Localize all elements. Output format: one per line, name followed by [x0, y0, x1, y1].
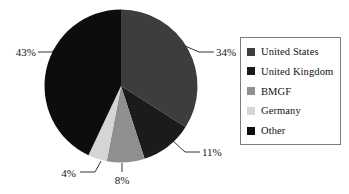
legend-swatch-icon-united-kingdom: [246, 66, 256, 76]
legend-swatch-icon-bmgf: [246, 86, 256, 96]
legend-swatch-icon-other: [246, 126, 256, 136]
pie-label-other: 43%: [16, 46, 36, 58]
legend-item-germany[interactable]: Germany: [246, 103, 337, 118]
pie-slices: [45, 10, 198, 163]
pie-label-germany: 4%: [61, 167, 76, 179]
legend-label-other: Other: [261, 125, 285, 136]
legend-item-bmgf[interactable]: BMGF: [246, 84, 337, 99]
legend-label-bmgf: BMGF: [261, 86, 291, 97]
legend-item-united-kingdom[interactable]: United Kingdom: [246, 64, 337, 79]
legend-item-other[interactable]: Other: [246, 123, 337, 138]
leader-line-united-kingdom: [172, 140, 200, 152]
leader-line-united-states: [185, 46, 214, 52]
legend-label-germany: Germany: [261, 105, 301, 116]
legend-label-united-kingdom: United Kingdom: [261, 66, 333, 77]
pie-label-bmgf: 8%: [115, 174, 130, 186]
legend-swatch-icon-united-states: [246, 47, 256, 57]
pie-chart-figure: 34% 11% 8% 4% 43% United States United K…: [0, 0, 349, 194]
pie-label-united-states: 34%: [216, 46, 236, 58]
pie-label-united-kingdom: 11%: [202, 146, 222, 158]
legend-label-united-states: United States: [261, 46, 319, 57]
chart-legend: United States United Kingdom BMGF German…: [240, 37, 341, 145]
legend-swatch-icon-germany: [246, 106, 256, 116]
legend-list: United States United Kingdom BMGF German…: [246, 42, 337, 141]
leader-line-germany: [80, 161, 101, 172]
legend-item-united-states[interactable]: United States: [246, 44, 337, 59]
